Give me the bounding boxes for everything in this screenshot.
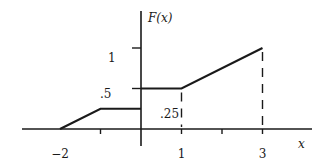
y-tick-label: 1 xyxy=(108,51,116,65)
cdf-chart: F(x) x −2131.5.25 xyxy=(0,0,330,168)
series-line-1 xyxy=(60,109,141,129)
tick-labels: −2131.5.25 xyxy=(51,51,266,161)
labels: F(x) x xyxy=(147,11,305,151)
series-line-2 xyxy=(141,48,263,89)
x-axis-label: x xyxy=(298,137,305,151)
y-axis-label: F(x) xyxy=(147,11,173,25)
y-tick-label: .25 xyxy=(160,107,179,121)
x-tick-label: 1 xyxy=(178,147,186,161)
y-tick-label: .5 xyxy=(100,87,111,101)
guides xyxy=(182,52,263,127)
x-tick-label: −2 xyxy=(51,147,69,161)
x-tick-label: 3 xyxy=(259,147,267,161)
